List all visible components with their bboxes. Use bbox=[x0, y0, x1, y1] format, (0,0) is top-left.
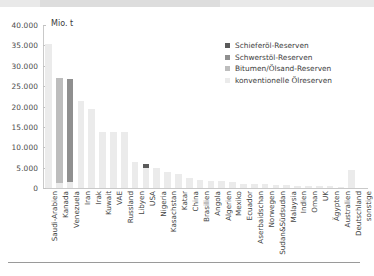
legend-label: Schwerstöl-Reserven bbox=[235, 53, 312, 62]
chart-legend: Schieferöl-ReservenSchwerstöl-ReservenBi… bbox=[225, 40, 332, 86]
bar bbox=[121, 25, 128, 188]
y-tick-label: 25.000 bbox=[12, 82, 38, 91]
bar-segment bbox=[67, 79, 74, 182]
bar bbox=[153, 25, 160, 188]
legend-swatch-icon bbox=[225, 55, 230, 60]
bar-segment bbox=[348, 170, 355, 188]
x-axis-label: Ecuador bbox=[245, 191, 254, 220]
bar-segment bbox=[186, 178, 193, 188]
bar bbox=[175, 25, 182, 188]
bar-segment bbox=[153, 168, 160, 188]
legend-label: Bitumen/Ölsand-Reserven bbox=[235, 64, 331, 73]
bar-segment bbox=[327, 186, 334, 188]
x-axis-label: Mexiko bbox=[234, 191, 243, 216]
bar bbox=[56, 25, 63, 188]
bar bbox=[348, 25, 355, 188]
x-axis-label: Australien bbox=[343, 191, 352, 227]
bar-segment bbox=[99, 132, 106, 188]
bar-segment bbox=[262, 184, 269, 188]
bar bbox=[110, 25, 117, 188]
bar bbox=[164, 25, 171, 188]
bar-segment bbox=[45, 44, 52, 188]
legend-label: konventionelle Ölreserven bbox=[235, 76, 332, 85]
bar-segment bbox=[175, 174, 182, 188]
bar-segment bbox=[338, 187, 345, 188]
bar-segment bbox=[164, 172, 171, 188]
bar bbox=[197, 25, 204, 188]
x-axis-label: Malaysia bbox=[289, 191, 298, 222]
bar-segment bbox=[143, 168, 150, 188]
bar bbox=[359, 25, 366, 188]
bar bbox=[88, 25, 95, 188]
x-axis-label: Indien bbox=[299, 191, 308, 213]
bar-segment bbox=[67, 182, 74, 188]
x-axis-label: UK bbox=[321, 191, 330, 201]
x-axis-label: VAE bbox=[115, 191, 124, 205]
y-tick-label: 5.000 bbox=[16, 163, 38, 172]
legend-swatch-icon bbox=[225, 43, 230, 48]
x-axis-label: Ägypten bbox=[332, 191, 341, 221]
bar bbox=[143, 25, 150, 188]
y-tick-label: 40.000 bbox=[12, 21, 38, 30]
y-tick-label: 35.000 bbox=[12, 41, 38, 50]
y-tick-label: 30.000 bbox=[12, 61, 38, 70]
bar-segment bbox=[218, 181, 225, 188]
bar-segment bbox=[305, 186, 312, 188]
x-axis-label: Brasilien bbox=[202, 191, 211, 222]
bar bbox=[67, 25, 74, 188]
x-axis-label: Venezuela bbox=[72, 191, 81, 228]
bar-segment bbox=[229, 182, 236, 188]
x-axis-label: Nigeria bbox=[159, 191, 168, 217]
x-axis-label: Angola bbox=[213, 191, 222, 216]
bar-segment bbox=[132, 162, 139, 188]
bar-segment bbox=[251, 184, 258, 188]
x-axis-label: Norwegen bbox=[267, 191, 276, 228]
bar bbox=[132, 25, 139, 188]
bar bbox=[78, 25, 85, 188]
bar bbox=[45, 25, 52, 188]
bar-segment bbox=[294, 186, 301, 188]
x-axis-label: Iran bbox=[83, 191, 92, 205]
y-tick-mark bbox=[43, 188, 46, 189]
bar-segment bbox=[283, 185, 290, 188]
bottom-divider bbox=[8, 262, 360, 263]
bar-segment bbox=[121, 132, 128, 188]
x-axis-label: Kasachstan bbox=[169, 191, 178, 232]
bar-segment bbox=[88, 109, 95, 188]
x-axis-label: Katar bbox=[180, 191, 189, 210]
x-axis-label: Algerien bbox=[224, 191, 233, 221]
bar bbox=[186, 25, 193, 188]
bar bbox=[208, 25, 215, 188]
legend-item: Bitumen/Ölsand-Reserven bbox=[225, 63, 332, 75]
x-axis-label: Aserbaidschan bbox=[256, 191, 265, 244]
bar-segment bbox=[78, 101, 85, 188]
x-axis-label: Irak bbox=[94, 191, 103, 205]
bar-segment bbox=[110, 132, 117, 188]
x-axis-label: Sudan&Südsudan bbox=[278, 191, 287, 255]
legend-item: Schwerstöl-Reserven bbox=[225, 52, 332, 64]
x-axis-label: China bbox=[191, 191, 200, 212]
x-axis-label: USA bbox=[148, 191, 157, 206]
y-tick-label: 0 bbox=[33, 184, 38, 193]
bar-segment bbox=[56, 78, 63, 183]
x-axis-label: Deutschland bbox=[354, 191, 363, 236]
legend-item: Schieferöl-Reserven bbox=[225, 40, 332, 52]
legend-swatch-icon bbox=[225, 78, 230, 83]
bar-segment bbox=[197, 180, 204, 188]
x-axis-label: Oman bbox=[310, 191, 319, 213]
x-axis-label: Kuwait bbox=[104, 191, 113, 215]
bar bbox=[338, 25, 345, 188]
bar-segment bbox=[273, 185, 280, 188]
x-axis-label: Russland bbox=[126, 191, 135, 223]
y-tick-label: 10.000 bbox=[12, 143, 38, 152]
bar bbox=[99, 25, 106, 188]
x-axis-label: Saudi-Arabien bbox=[50, 191, 59, 241]
y-tick-label: 20.000 bbox=[12, 102, 38, 111]
bar-segment bbox=[316, 186, 323, 188]
x-axis-line bbox=[43, 188, 368, 189]
bar-segment bbox=[208, 181, 215, 188]
bar-segment bbox=[56, 183, 63, 188]
x-axis-label: Kanada bbox=[61, 191, 70, 218]
legend-label: Schieferöl-Reserven bbox=[235, 41, 309, 50]
oil-reserves-bar-chart: Mio. t 05.00010.00015.00020.00025.00030.… bbox=[0, 0, 374, 276]
